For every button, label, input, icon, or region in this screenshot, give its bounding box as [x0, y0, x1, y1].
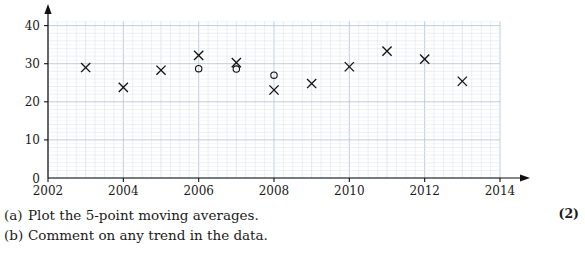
- catch-vs-year-scatter-plot: 2002200420062008201020122014010203040: [0, 0, 585, 210]
- svg-text:30: 30: [25, 57, 40, 71]
- question-b-text: Comment on any trend in the data.: [28, 226, 524, 246]
- question-list: (a) Plot the 5-point moving averages. (b…: [4, 206, 524, 245]
- svg-text:2004: 2004: [108, 184, 139, 198]
- svg-text:20: 20: [25, 95, 40, 109]
- question-b-tag: (b): [4, 226, 28, 246]
- svg-text:2006: 2006: [183, 184, 214, 198]
- svg-text:2002: 2002: [33, 184, 64, 198]
- svg-text:40: 40: [25, 19, 40, 33]
- tick-labels: 2002200420062008201020122014010203040: [25, 19, 516, 198]
- svg-text:2010: 2010: [334, 184, 365, 198]
- question-item-a: (a) Plot the 5-point moving averages.: [4, 206, 524, 226]
- svg-text:2014: 2014: [485, 184, 516, 198]
- svg-text:10: 10: [25, 133, 40, 147]
- gridlines: [48, 21, 500, 178]
- svg-text:2008: 2008: [259, 184, 290, 198]
- svg-text:0: 0: [32, 172, 40, 186]
- chart-container: 2002200420062008201020122014010203040: [0, 0, 585, 210]
- question-a-text: Plot the 5-point moving averages.: [28, 206, 524, 226]
- question-a-tag: (a): [4, 206, 28, 226]
- question-item-b: (b) Comment on any trend in the data.: [4, 226, 524, 246]
- svg-text:2012: 2012: [409, 184, 440, 198]
- marks-allocation: (2): [558, 206, 579, 221]
